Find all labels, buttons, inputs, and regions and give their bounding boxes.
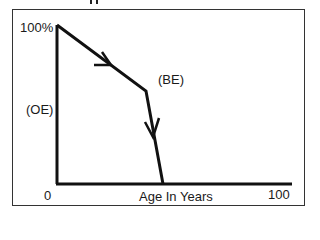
x-origin-label: 0 — [44, 188, 51, 203]
be-curve — [57, 25, 163, 184]
oe-label: (OE) — [26, 102, 53, 117]
x-axis-label: Age In Years — [139, 189, 213, 204]
be-label: (BE) — [158, 72, 184, 87]
x-max-label: 100 — [268, 187, 290, 202]
y-top-label: 100% — [20, 20, 53, 35]
